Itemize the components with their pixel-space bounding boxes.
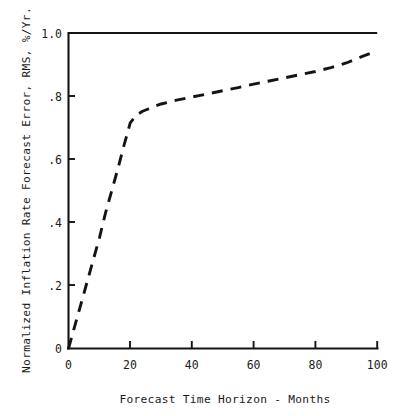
y-tick-label-02: .2 xyxy=(48,279,62,293)
x-tick-label-60: 60 xyxy=(247,358,261,372)
x-tick-label-40: 40 xyxy=(185,358,199,372)
y-tick-label-06: .6 xyxy=(48,153,62,167)
y-tick-label-08: .8 xyxy=(48,90,62,104)
y-axis-title: Normalized Inflation Rate Forecast Error… xyxy=(20,7,33,373)
data-series-layer xyxy=(69,33,378,349)
chart-figure: 1.0 .8 .6 .4 .2 0 0 20 40 60 80 100 Fore… xyxy=(0,0,407,416)
x-tick-label-100: 100 xyxy=(367,358,388,372)
series-normalized-forecast-error xyxy=(69,52,375,349)
x-tick-label-0: 0 xyxy=(65,358,72,372)
x-tick-marks xyxy=(130,341,377,349)
y-tick-label-0: 0 xyxy=(55,342,62,356)
chart-plot-area: 1.0 .8 .6 .4 .2 0 0 20 40 60 80 100 Fore… xyxy=(0,0,407,416)
y-tick-label-04: .4 xyxy=(48,216,62,230)
x-axis-title: Forecast Time Horizon - Months xyxy=(119,393,330,406)
x-tick-label-20: 20 xyxy=(123,358,137,372)
y-tick-label-1: 1.0 xyxy=(41,27,62,41)
x-tick-label-80: 80 xyxy=(308,358,322,372)
